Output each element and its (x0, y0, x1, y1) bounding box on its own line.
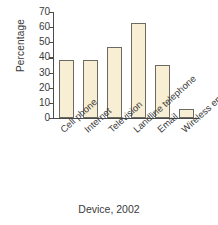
bar-series (54, 12, 199, 118)
y-axis-tick-labels: 010203040506070 (28, 12, 50, 119)
bar (59, 60, 74, 118)
x-axis-title: Device, 2002 (0, 203, 218, 215)
bar (107, 47, 122, 118)
y-tick-mark (49, 57, 54, 58)
y-tick-mark (49, 12, 54, 13)
y-tick-mark (49, 88, 54, 89)
y-axis-title: Percentage (15, 1, 26, 91)
y-tick-mark (49, 73, 54, 74)
y-tick-mark (49, 118, 54, 119)
bar-chart: Percentage 010203040506070 Cell phoneInt… (0, 0, 218, 225)
y-tick-mark (49, 103, 54, 104)
y-tick-mark (49, 42, 54, 43)
x-axis-category-labels: Cell phoneInternetTelevisionLandline tel… (53, 120, 213, 198)
plot-area (53, 12, 199, 119)
y-tick-mark (49, 27, 54, 28)
